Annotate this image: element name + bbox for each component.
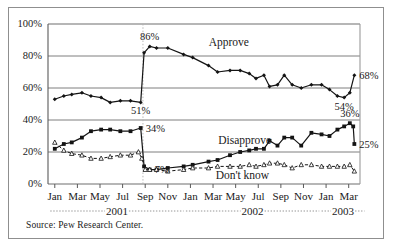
- value-label-68%: 68%: [359, 70, 379, 81]
- marker-square: [342, 125, 346, 129]
- marker-square: [99, 128, 103, 132]
- x-tick-Nov-5: Nov: [158, 190, 177, 202]
- y-tick-60%: 60%: [23, 82, 43, 93]
- marker-diamond: [53, 97, 57, 101]
- marker-square: [70, 141, 74, 145]
- value-label-34%: 34%: [146, 123, 166, 134]
- marker-diamond: [70, 92, 74, 96]
- marker-triangle: [267, 161, 271, 165]
- marker-square: [89, 129, 93, 133]
- series-annotation-don-t-know: Don't know: [216, 169, 270, 181]
- series-approve: [53, 44, 357, 104]
- y-axis-labels: 0%20%40%60%80%100%: [18, 18, 43, 189]
- marker-triangle: [238, 164, 242, 168]
- marker-square: [53, 147, 57, 151]
- marker-diamond: [262, 73, 266, 77]
- marker-square: [247, 149, 251, 153]
- marker-square: [282, 136, 286, 140]
- value-label-86%: 86%: [140, 31, 160, 42]
- marker-triangle: [282, 162, 286, 166]
- value-label-36%: 36%: [340, 108, 360, 119]
- marker-square: [108, 128, 112, 132]
- marker-diamond: [228, 68, 232, 72]
- marker-triangle: [290, 166, 294, 170]
- marker-triangle: [136, 150, 140, 154]
- marker-square: [254, 147, 258, 151]
- x-tick-May-2: May: [90, 190, 111, 202]
- y-tick-40%: 40%: [23, 114, 43, 125]
- marker-triangle: [299, 162, 303, 166]
- marker-triangle: [62, 148, 66, 152]
- marker-diamond: [299, 86, 303, 90]
- marker-triangle: [342, 164, 346, 168]
- marker-triangle: [348, 162, 352, 166]
- approval-line-chart: 0%20%40%60%80%100%JanMarMayJulSepNovJanM…: [0, 0, 393, 248]
- marker-triangle: [247, 162, 251, 166]
- x-tick-Jan-6: Jan: [183, 190, 198, 202]
- y-tick-0%: 0%: [28, 178, 42, 189]
- gridlines-group: [48, 24, 360, 184]
- x-tick-Jul-9: Jul: [252, 190, 265, 202]
- marker-triangle: [228, 164, 232, 168]
- marker-triangle: [108, 154, 112, 158]
- marker-square: [299, 144, 303, 148]
- source-note: Source: Pew Research Center.: [26, 220, 143, 230]
- marker-square: [216, 158, 220, 162]
- value-label-7%: 7%: [155, 164, 169, 175]
- marker-triangle: [80, 153, 84, 157]
- y-tick-80%: 80%: [23, 50, 43, 61]
- marker-triangle: [89, 156, 93, 160]
- marker-triangle: [309, 162, 313, 166]
- x-tick-Nov-11: Nov: [294, 190, 313, 202]
- marker-square: [262, 147, 266, 151]
- marker-diamond: [155, 46, 159, 50]
- marker-square: [276, 144, 280, 148]
- marker-square: [290, 136, 294, 140]
- marker-triangle: [254, 164, 258, 168]
- year-label-2002: 2002: [242, 205, 264, 217]
- marker-diamond: [62, 94, 66, 98]
- chart-figure: 0%20%40%60%80%100%JanMarMayJulSepNovJanM…: [0, 0, 393, 248]
- series-annotation-approve: Approve: [209, 36, 249, 49]
- year-label-2001: 2001: [106, 205, 128, 217]
- marker-triangle: [53, 140, 57, 144]
- marker-square: [62, 142, 66, 146]
- marker-square: [129, 129, 133, 133]
- marker-triangle: [275, 161, 279, 165]
- x-tick-Jan-0: Jan: [47, 190, 62, 202]
- marker-square: [328, 134, 332, 138]
- marker-square: [228, 153, 232, 157]
- marker-diamond: [309, 83, 313, 87]
- plot-frame: [48, 24, 360, 184]
- x-tick-Sep-4: Sep: [137, 190, 154, 202]
- x-tick-Jan-12: Jan: [319, 190, 334, 202]
- marker-square: [335, 128, 339, 132]
- marker-diamond: [166, 46, 170, 50]
- x-tick-Mar-13: Mar: [340, 190, 359, 202]
- marker-triangle: [335, 164, 339, 168]
- marker-triangle: [206, 166, 210, 170]
- x-axis-labels: JanMarMayJulSepNovJanMarMayJulSepNovJanM…: [47, 184, 358, 202]
- year-groups: 200120022003: [50, 205, 364, 217]
- x-tick-Jul-3: Jul: [116, 190, 129, 202]
- year-label-2003: 2003: [332, 205, 355, 217]
- marker-diamond: [238, 68, 242, 72]
- y-tick-100%: 100%: [18, 18, 43, 29]
- x-tick-May-8: May: [226, 190, 247, 202]
- marker-triangle: [215, 164, 219, 168]
- marker-diamond: [129, 99, 133, 103]
- marker-triangle: [128, 153, 132, 157]
- marker-diamond: [80, 91, 84, 95]
- marker-diamond: [89, 94, 93, 98]
- marker-triangle: [99, 156, 103, 160]
- marker-diamond: [139, 100, 143, 104]
- series-line-0: [55, 46, 355, 102]
- marker-square: [352, 142, 356, 146]
- marker-square: [207, 160, 211, 164]
- marker-square: [348, 121, 352, 125]
- marker-triangle: [319, 164, 323, 168]
- series-don-t-know: [53, 140, 357, 173]
- marker-diamond: [118, 99, 122, 103]
- marker-square: [351, 125, 355, 129]
- marker-triangle: [118, 153, 122, 157]
